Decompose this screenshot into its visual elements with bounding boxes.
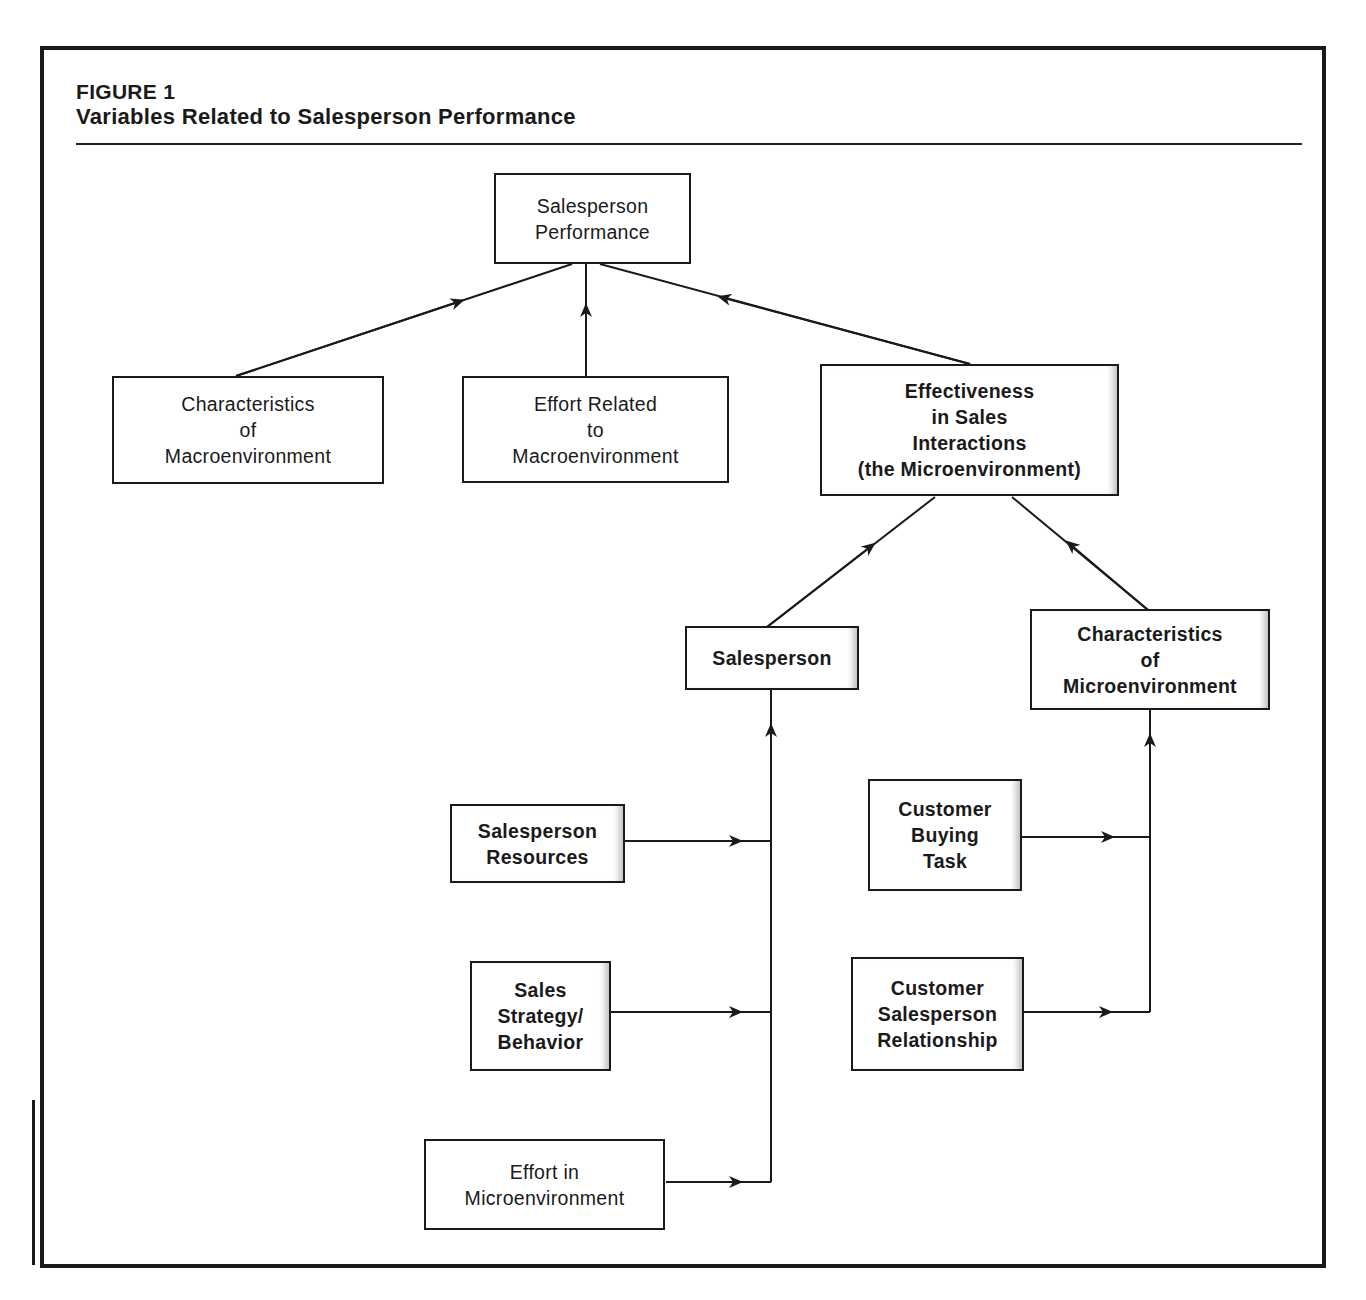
node-macro-effort: Effort Related to Macroenvironment bbox=[462, 376, 729, 483]
node-customer-buying-task: Customer Buying Task bbox=[868, 779, 1022, 891]
node-sales-strategy: Sales Strategy/ Behavior bbox=[470, 961, 611, 1071]
node-macro-characteristics: Characteristics of Macroenvironment bbox=[112, 376, 384, 484]
node-salesperson-resources: Salesperson Resources bbox=[450, 804, 625, 883]
node-customer-relationship: Customer Salesperson Relationship bbox=[851, 957, 1024, 1071]
node-salesperson: Salesperson bbox=[685, 626, 859, 690]
node-salesperson-performance: Salesperson Performance bbox=[494, 173, 691, 264]
node-micro-characteristics: Characteristics of Microenvironment bbox=[1030, 609, 1270, 710]
node-effectiveness: Effectiveness in Sales Interactions (the… bbox=[820, 364, 1119, 496]
node-micro-effort: Effort in Microenvironment bbox=[424, 1139, 665, 1230]
